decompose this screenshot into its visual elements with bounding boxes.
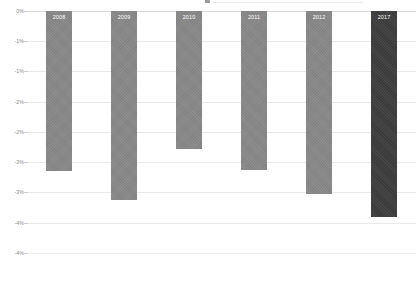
- bar-chart: 200820092010201120122017 0%-1%-1%-2%-2%-…: [0, 0, 416, 291]
- bar-label: 2010: [176, 14, 202, 21]
- y-axis-tick-mark: [24, 132, 28, 133]
- bar-2010[interactable]: 2010: [176, 11, 202, 149]
- top-rule-divider: [213, 2, 363, 3]
- y-axis-tick-mark: [24, 11, 28, 12]
- y-axis-tick-label: -1%: [0, 38, 24, 44]
- bar-2011[interactable]: 2011: [241, 11, 267, 170]
- y-axis-tick-mark: [24, 102, 28, 103]
- y-axis-tick-label: -4%: [0, 220, 24, 226]
- bar-label: 2012: [306, 14, 332, 21]
- gridline: [27, 132, 416, 133]
- y-axis-tick-mark: [24, 253, 28, 254]
- plot-area: 200820092010201120122017: [27, 11, 416, 283]
- gridline: [27, 102, 416, 103]
- gridline: [27, 192, 416, 193]
- bar-2009[interactable]: 2009: [111, 11, 137, 200]
- y-axis-tick-label: -3%: [0, 159, 24, 165]
- bar-label: 2011: [241, 14, 267, 21]
- top-marker-icon: [205, 0, 210, 3]
- bar-label: 2017: [371, 14, 397, 21]
- bar-label: 2009: [111, 14, 137, 21]
- bar-2017[interactable]: 2017: [371, 11, 397, 217]
- y-axis-tick-mark: [24, 192, 28, 193]
- gridline: [27, 71, 416, 72]
- y-axis-tick-label: -4%: [0, 250, 24, 256]
- y-axis-tick-mark: [24, 41, 28, 42]
- y-axis-tick-label: -2%: [0, 99, 24, 105]
- gridline: [27, 41, 416, 42]
- y-axis-tick-label: -3%: [0, 189, 24, 195]
- y-axis-tick-label: -1%: [0, 68, 24, 74]
- y-axis-tick-mark: [24, 223, 28, 224]
- gridline: [27, 11, 416, 12]
- bar-2012[interactable]: 2012: [306, 11, 332, 194]
- y-axis-tick-label: -2%: [0, 129, 24, 135]
- y-axis-tick-mark: [24, 71, 28, 72]
- bar-label: 2008: [46, 14, 72, 21]
- gridline: [27, 253, 416, 254]
- gridline: [27, 223, 416, 224]
- y-axis-tick-mark: [24, 162, 28, 163]
- y-axis-tick-label: 0%: [0, 8, 24, 14]
- gridline: [27, 162, 416, 163]
- bar-2008[interactable]: 2008: [46, 11, 72, 171]
